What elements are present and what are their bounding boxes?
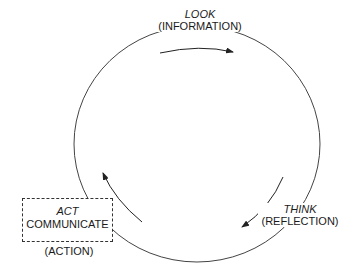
node-act-caption: (ACTION) [40, 245, 98, 257]
node-act-subtitle: COMMUNICATE [23, 218, 112, 231]
node-think: THINK (REFLECTION) [258, 203, 342, 227]
node-think-subtitle: (REFLECTION) [260, 215, 340, 227]
node-act-box: ACT COMMUNICATE [22, 198, 113, 242]
node-look: LOOK (INFORMATION) [148, 8, 252, 32]
arrow-look-to-think [160, 48, 233, 53]
node-look-subtitle: (INFORMATION) [150, 20, 250, 32]
cycle-diagram: LOOK (INFORMATION) THINK (REFLECTION) AC… [0, 0, 348, 273]
node-look-title: LOOK [150, 8, 250, 20]
node-think-title: THINK [260, 203, 340, 215]
node-act-title: ACT [23, 205, 112, 218]
